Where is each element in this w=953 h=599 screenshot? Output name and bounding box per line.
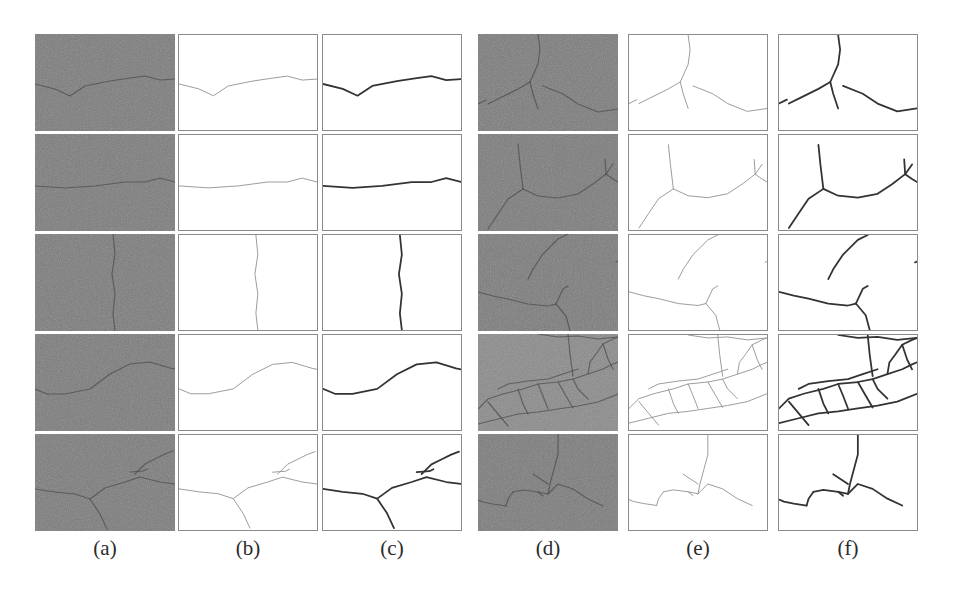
crack-line (752, 345, 762, 369)
panel-b-row-1 (178, 34, 318, 131)
crack-line (688, 335, 767, 340)
panel-a-row-5 (35, 434, 175, 531)
crack-line (718, 335, 723, 376)
crack-line (779, 292, 856, 306)
crack-line (323, 178, 461, 188)
panel-d-row-1 (478, 34, 618, 131)
crack-line (693, 86, 767, 111)
crack-line (706, 286, 718, 304)
crack-line (323, 76, 461, 96)
column-label-a: (a) (35, 536, 175, 561)
column-label-c: (c) (322, 536, 462, 561)
crack-line (629, 100, 637, 104)
panel-a-row-2 (35, 134, 175, 231)
crack-line (789, 82, 830, 104)
crack-line (818, 145, 823, 189)
crack-line (807, 492, 814, 506)
panel-f-row-1 (778, 34, 918, 131)
crack-line (278, 452, 315, 475)
crack-line (789, 402, 809, 426)
crack-line (858, 382, 873, 407)
crack-line (915, 261, 917, 262)
crack-line (905, 174, 917, 182)
panel-c-row-2 (322, 134, 462, 231)
panel-a-row-4 (35, 334, 175, 431)
crack-line (698, 484, 752, 506)
crack-line (838, 384, 848, 408)
crack-line (179, 362, 317, 393)
panel-e-row-3 (628, 234, 768, 331)
crack-line (823, 164, 912, 197)
crack-line (683, 474, 698, 484)
crack-line (668, 389, 678, 413)
crack-line (664, 490, 699, 494)
crack-line (688, 384, 698, 408)
crack-line (868, 335, 873, 376)
panel-f-row-4 (778, 334, 918, 431)
panel-d-row-2 (478, 134, 618, 231)
panel-b-row-5 (178, 434, 318, 531)
crack-line (755, 174, 767, 182)
crack-line (856, 304, 870, 330)
panel-c-row-4 (322, 334, 462, 431)
crack-line (179, 76, 317, 96)
crack-line (323, 362, 461, 393)
crack-line (828, 235, 867, 279)
panel-f-row-5 (778, 434, 918, 531)
panel-e-row-5 (628, 434, 768, 531)
crack-line (904, 159, 905, 174)
crack-line (179, 178, 317, 188)
crack-line (708, 382, 723, 407)
crack-line (754, 159, 755, 174)
column-label-e: (e) (628, 536, 768, 561)
crack-line (255, 235, 258, 330)
crack-line (673, 164, 762, 197)
crack-line (678, 235, 717, 279)
crack-line (629, 292, 706, 306)
crack-line (706, 304, 720, 330)
panel-d-row-3 (478, 234, 618, 331)
column-label-d: (d) (478, 536, 618, 561)
crack-line (639, 402, 659, 426)
crack-line (233, 499, 250, 528)
crack-line (848, 484, 902, 506)
panel-c-row-3 (322, 234, 462, 331)
panel-e-row-1 (628, 34, 768, 131)
crack-line (833, 474, 848, 484)
panel-d-row-5 (478, 434, 618, 531)
panel-b-row-2 (178, 134, 318, 231)
crack-line (323, 477, 461, 499)
crack-line (668, 145, 673, 189)
crack-line (843, 86, 917, 111)
crack-line (838, 335, 917, 340)
crack-line (179, 477, 317, 499)
crack-line (830, 82, 838, 108)
crack-line (789, 189, 824, 228)
crack-line (856, 286, 868, 304)
crack-line (680, 35, 690, 82)
panel-b-row-3 (178, 234, 318, 331)
crack-line (629, 500, 657, 506)
column-label-b: (b) (178, 536, 318, 561)
crack-line (765, 261, 767, 262)
crack-line (649, 369, 728, 389)
panel-c-row-1 (322, 34, 462, 131)
panel-c-row-5 (322, 434, 462, 531)
crack-line (873, 379, 888, 399)
crack-line (779, 500, 807, 506)
crack-line (377, 499, 394, 528)
panel-d-row-4 (478, 334, 618, 431)
panel-e-row-4 (628, 334, 768, 431)
panel-b-row-4 (178, 334, 318, 431)
crack-line (902, 345, 912, 369)
crack-line (639, 82, 680, 104)
crack-line (779, 100, 787, 104)
crack-line (657, 492, 664, 506)
crack-line (680, 82, 688, 108)
crack-line (723, 379, 738, 399)
crack-line (399, 235, 402, 330)
panel-f-row-3 (778, 234, 918, 331)
panel-a-row-1 (35, 34, 175, 131)
crack-line (830, 35, 840, 82)
column-label-f: (f) (778, 536, 918, 561)
